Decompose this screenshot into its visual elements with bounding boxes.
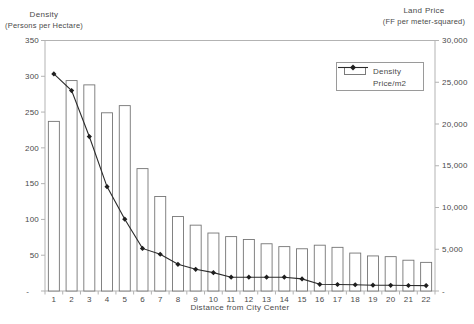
bar-5	[119, 106, 130, 291]
left-tick-label: 100	[25, 215, 39, 224]
bar-14	[279, 247, 290, 291]
right-tick-label: 10,000	[442, 203, 468, 212]
x-tick-label: 5	[122, 295, 127, 304]
bar-13	[261, 244, 272, 291]
plot-area: 35030025020015010050-30,00025,00020,0001…	[0, 0, 474, 324]
right-tick-label: 15,000	[442, 161, 468, 170]
left-tick-label: 200	[25, 144, 39, 153]
bar-7	[155, 197, 166, 291]
legend-label-density: Density	[373, 67, 401, 76]
right-tick-label: 20,000	[442, 120, 468, 129]
legend: Density Price/m2	[336, 62, 424, 91]
x-tick-label: 18	[351, 295, 361, 304]
left-axis: 35030025020015010050-	[25, 36, 45, 296]
right-axis-title-line1: Land Price	[374, 6, 474, 17]
bar-4	[102, 113, 113, 291]
right-tick-label: 25,000	[442, 78, 468, 87]
x-tick-label: 22	[421, 295, 431, 304]
bar-10	[208, 233, 219, 291]
legend-label-price: Price/m2	[373, 79, 406, 88]
left-axis-title-line2: (Persons per Hectare)	[2, 21, 86, 32]
right-axis-title-line2: (FF per meter-squared)	[374, 17, 474, 28]
x-axis: 12345678910111213141516171819202122	[45, 291, 435, 304]
left-tick-label: -	[26, 287, 29, 296]
line-diamond-swatch-icon	[337, 63, 369, 72]
x-tick-label: 20	[386, 295, 396, 304]
bar-2	[66, 81, 77, 291]
x-tick-label: 4	[105, 295, 110, 304]
x-tick-label: 3	[87, 295, 92, 304]
left-tick-label: 150	[25, 179, 39, 188]
bar-8	[172, 217, 183, 291]
left-axis-title-line1: Density	[2, 10, 86, 21]
right-tick-label: 5,000	[442, 245, 463, 254]
x-tick-label: 2	[69, 295, 74, 304]
legend-item-price: Price/m2	[337, 77, 423, 89]
left-tick-label: 250	[25, 108, 39, 117]
right-tick-label: -	[442, 287, 445, 296]
left-tick-label: 350	[25, 36, 39, 45]
x-axis-title: Distance from City Center	[145, 303, 335, 312]
bar-12	[243, 239, 254, 291]
bar-3	[84, 85, 95, 291]
x-tick-label: 21	[404, 295, 414, 304]
bar-9	[190, 225, 201, 291]
x-tick-label: 19	[368, 295, 378, 304]
left-tick-label: 50	[30, 251, 40, 260]
right-axis: 30,00025,00020,00015,00010,0005,000-	[435, 36, 468, 296]
bar-11	[226, 237, 237, 291]
bar-1	[48, 121, 59, 291]
right-tick-label: 30,000	[442, 36, 468, 45]
bar-15	[297, 249, 308, 291]
density-landprice-chart: 35030025020015010050-30,00025,00020,0001…	[0, 0, 474, 324]
left-axis-title: Density (Persons per Hectare)	[2, 10, 86, 31]
bar-6	[137, 169, 148, 291]
left-tick-label: 300	[25, 72, 39, 81]
right-axis-title: Land Price (FF per meter-squared)	[374, 6, 474, 27]
x-tick-label: 1	[52, 295, 57, 304]
